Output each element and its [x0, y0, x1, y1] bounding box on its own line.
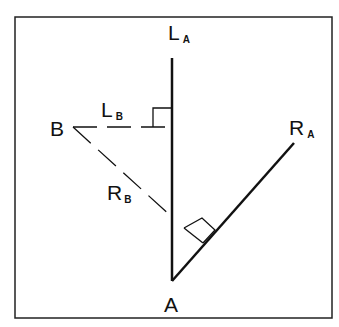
label-b: B: [50, 117, 64, 140]
label-la: LA: [168, 21, 190, 45]
label-ra: RA: [289, 116, 314, 140]
line-ra: [172, 143, 294, 281]
right-angle-marker-lb: [153, 108, 172, 127]
line-rb-dashed: [73, 127, 172, 217]
label-lb: LB: [101, 98, 123, 122]
perpendicular-tick: [184, 228, 203, 243]
label-a: A: [164, 293, 178, 316]
label-rb: RB: [107, 181, 131, 205]
diagram-frame: [15, 17, 332, 318]
geometry-diagram: LA LB RA RB B A: [0, 0, 339, 327]
